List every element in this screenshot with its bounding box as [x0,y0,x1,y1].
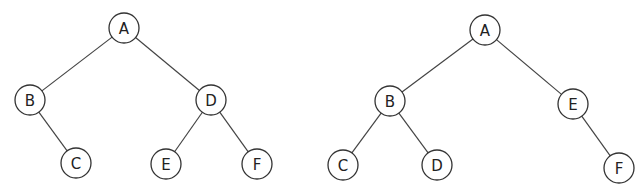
node-E: E [151,149,181,179]
node-label: D [205,92,217,110]
node-C: C [328,150,358,180]
binary-tree-diagram: ABDCEFABECDF [0,0,643,191]
edge-A-E [496,40,561,95]
node-C: C [61,148,91,178]
node-A: A [470,15,500,45]
node-label: B [25,92,35,110]
edge-A-B [42,37,112,91]
node-D: D [422,150,452,180]
node-A: A [109,13,139,43]
node-label: C [71,155,81,173]
node-D: D [196,85,226,115]
node-label: E [568,96,577,114]
edge-B-C [39,112,67,151]
edge-B-D [399,113,428,153]
node-B: B [15,85,45,115]
node-F: F [242,149,272,179]
edge-D-E [175,112,203,151]
node-label: F [253,156,262,174]
node-E: E [558,89,588,119]
edge-E-F [582,116,610,156]
edge-A-D [136,38,200,91]
tree-right: ABECDF [328,15,634,183]
node-label: D [431,157,443,175]
node-label: F [615,160,624,178]
edge-D-F [220,112,248,152]
node-F: F [604,153,634,183]
node-label: A [480,22,491,40]
node-label: C [338,157,348,175]
tree-left: ABDCEF [15,13,272,179]
node-label: A [119,20,130,38]
edge-B-C [352,113,381,153]
node-B: B [375,86,405,116]
node-label: E [161,156,170,174]
edge-A-B [402,39,473,92]
node-label: B [385,93,395,111]
